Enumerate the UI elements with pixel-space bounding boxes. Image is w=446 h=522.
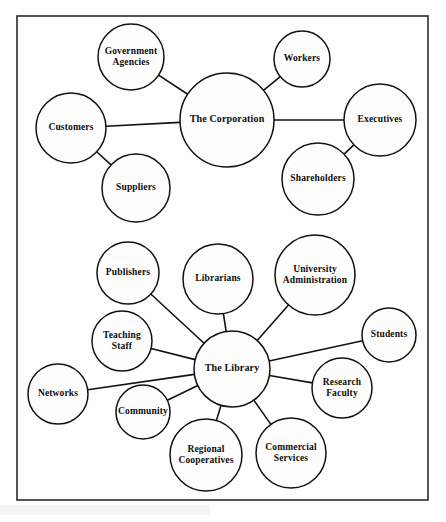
node-networks[interactable]: Networks — [28, 364, 88, 424]
node-label-customers: Customers — [48, 122, 93, 132]
node-commercial-services[interactable]: CommercialServices — [256, 418, 326, 488]
node-suppliers[interactable]: Suppliers — [102, 154, 170, 222]
node-publishers[interactable]: Publishers — [97, 242, 159, 304]
node-label-networks: Networks — [38, 388, 78, 398]
node-label-students: Students — [371, 329, 408, 339]
network-diagram-canvas: GovernmentAgenciesWorkersCustomersThe Co… — [0, 0, 446, 522]
node-students[interactable]: Students — [362, 308, 416, 362]
node-label-publishers: Publishers — [106, 267, 150, 277]
node-librarians[interactable]: Librarians — [183, 244, 253, 314]
node-label-librarians: Librarians — [195, 273, 240, 283]
node-label-the-corporation: The Corporation — [190, 113, 265, 124]
node-government-agencies[interactable]: GovernmentAgencies — [98, 24, 164, 90]
scan-artifact — [0, 505, 210, 515]
node-community[interactable]: Community — [116, 385, 170, 439]
node-teaching-staff[interactable]: TeachingStaff — [92, 311, 152, 371]
node-label-suppliers: Suppliers — [116, 182, 156, 192]
node-executives[interactable]: Executives — [344, 84, 416, 156]
node-workers[interactable]: Workers — [274, 31, 330, 87]
node-shareholders[interactable]: Shareholders — [282, 143, 354, 215]
node-label-workers: Workers — [284, 53, 321, 63]
node-the-corporation[interactable]: The Corporation — [180, 73, 274, 167]
node-university-administration[interactable]: UniversityAdministration — [275, 235, 355, 315]
node-label-research-faculty: ResearchFaculty — [323, 377, 362, 398]
node-customers[interactable]: Customers — [36, 93, 106, 163]
node-label-the-library: The Library — [205, 362, 260, 373]
node-label-shareholders: Shareholders — [290, 173, 346, 183]
node-regional-cooperatives[interactable]: RegionalCooperatives — [170, 419, 242, 491]
node-label-executives: Executives — [358, 114, 403, 124]
node-research-faculty[interactable]: ResearchFaculty — [312, 358, 372, 418]
node-the-library[interactable]: The Library — [194, 331, 270, 407]
figure-frame: GovernmentAgenciesWorkersCustomersThe Co… — [0, 0, 446, 522]
node-label-community: Community — [118, 406, 168, 416]
